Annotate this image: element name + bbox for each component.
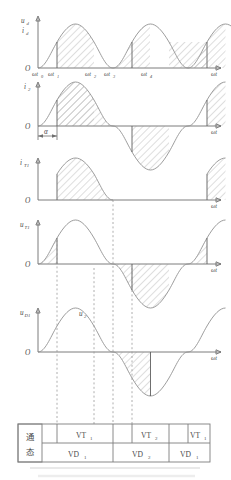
cell-vd-1: VD bbox=[68, 450, 79, 459]
tick-wt4: ωt bbox=[141, 70, 147, 77]
cell-vt-3: VT bbox=[190, 431, 200, 440]
chart-it1: i T1 O ωt bbox=[20, 158, 226, 209]
it1-shade-1 bbox=[57, 158, 113, 200]
chart3-ylabel-sub: T1 bbox=[24, 163, 29, 168]
chart5-origin: O bbox=[25, 348, 31, 357]
tick-wt1-sub: 1 bbox=[57, 74, 59, 79]
i2-shade-3 bbox=[207, 82, 226, 126]
timing-guides bbox=[57, 200, 132, 424]
chart1-xlabel: ωt bbox=[211, 70, 217, 77]
chart4-origin: O bbox=[25, 260, 31, 269]
tick-wt1: ωt bbox=[48, 70, 54, 77]
chart3-xlabel: ωt bbox=[211, 202, 217, 209]
cell-vd-3: VD bbox=[180, 450, 191, 459]
chart4-ylabel-sub: T1 bbox=[25, 225, 30, 230]
tick-wt3-sub: 3 bbox=[113, 74, 115, 79]
chart2-xlabel: ωt bbox=[211, 128, 217, 135]
table-header-char-1: 通 bbox=[26, 432, 35, 442]
chart-ud1: u D1 u 2 O ωt bbox=[20, 308, 226, 396]
chart5-xlabel: ωt bbox=[211, 354, 217, 361]
cell-vt-2: VT bbox=[141, 431, 151, 440]
tick-wt4-sub: 4 bbox=[150, 74, 153, 79]
cell-vt-1: VT bbox=[76, 431, 86, 440]
i2-shade-2 bbox=[132, 126, 169, 170]
i2-shade-1b bbox=[57, 82, 113, 126]
ut1-shade-1 bbox=[38, 238, 57, 264]
table-header-char-2: 态 bbox=[26, 447, 35, 457]
cell-vd-2: VD bbox=[132, 450, 143, 459]
cell-vd-3-sub: 1 bbox=[196, 455, 199, 460]
chart3-origin: O bbox=[25, 196, 31, 205]
chart5-ylabel: u bbox=[20, 309, 24, 317]
chart5-curve-label: u bbox=[79, 310, 83, 318]
tick-wt2: ωt bbox=[85, 70, 91, 77]
chart2-ylabel: i bbox=[24, 83, 26, 91]
chart3-ylabel: i bbox=[20, 159, 22, 167]
chart1-ylabel-u-sub: d bbox=[27, 21, 30, 26]
chart1-ylabel-i: i bbox=[22, 27, 24, 35]
cell-vd-1-sub: 1 bbox=[84, 455, 87, 460]
chart4-ylabel: u bbox=[20, 221, 24, 229]
tick-wt2-sub: 2 bbox=[94, 74, 97, 79]
ut1-shade-2a bbox=[113, 264, 132, 290]
tick-wt3: ωt bbox=[104, 70, 110, 77]
chart2-ylabel-sub: 2 bbox=[28, 87, 31, 92]
chart1-origin: O bbox=[25, 64, 31, 73]
tick-wt0-sub: 0 bbox=[41, 74, 44, 79]
chart-i2: i 2 O ωt α bbox=[24, 82, 226, 170]
cell-vt-2-sub: 2 bbox=[155, 436, 158, 441]
cell-vt-1-sub: 1 bbox=[90, 436, 93, 441]
cell-vt-3-sub: 1 bbox=[204, 436, 207, 441]
chart4-xlabel: ωt bbox=[211, 266, 217, 273]
caption-strip bbox=[30, 468, 200, 476]
ut1-shade-2 bbox=[132, 264, 169, 308]
it1-shade-2 bbox=[207, 158, 226, 200]
chart-ud-id: u d i d O ωt 0 ωt 1 ωt 2 ωt 3 ωt 4 ωt bbox=[21, 16, 231, 79]
conduction-state-table: 通 态 VT 1 VT 2 VT 1 VD 1 VD 2 VD 1 bbox=[18, 424, 210, 462]
chart1-ylabel-i-sub: d bbox=[26, 31, 29, 36]
chart-ut1: u T1 O ωt bbox=[20, 220, 226, 308]
chart5-ylabel-sub: D1 bbox=[24, 313, 31, 318]
alpha-dimension: α bbox=[38, 126, 57, 140]
alpha-label: α bbox=[44, 128, 48, 136]
chart2-origin: O bbox=[25, 122, 31, 131]
waveform-figure: u d i d O ωt 0 ωt 1 ωt 2 ωt 3 ωt 4 ωt i … bbox=[0, 0, 231, 480]
ut1-shade-3 bbox=[188, 238, 207, 264]
cell-vd-2-sub: 2 bbox=[148, 455, 151, 460]
chart1-ylabel-u: u bbox=[21, 17, 25, 25]
tick-wt0: ωt bbox=[32, 70, 38, 77]
